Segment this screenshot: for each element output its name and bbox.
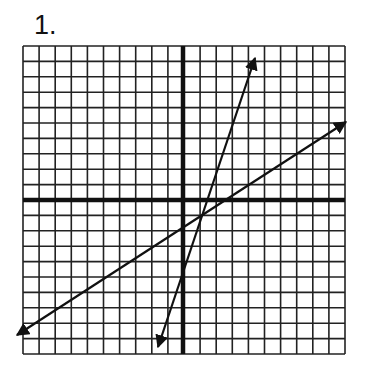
steep-line — [158, 58, 255, 347]
coordinate-graph — [0, 0, 369, 389]
